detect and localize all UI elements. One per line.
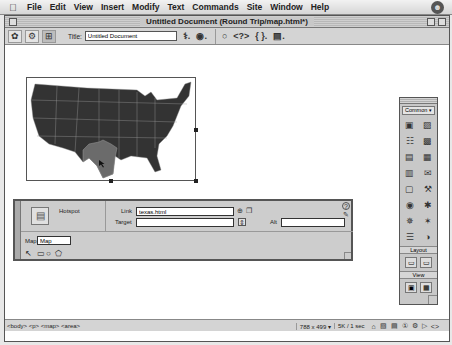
code-view-button[interactable]: ✿ <box>8 30 22 43</box>
tag-selector[interactable]: <body> <p> <map> <area> <box>7 323 80 329</box>
file-management-icon[interactable]: ⚕. <box>183 31 191 41</box>
title-label: Title: <box>68 33 82 40</box>
insert-flash-text-icon[interactable]: ✶ <box>421 215 435 227</box>
standard-view-icon[interactable]: ▣ <box>405 282 417 293</box>
code-inspector-launcher-icon[interactable]: <> <box>431 323 439 330</box>
divider <box>21 231 353 232</box>
menu-edit[interactable]: Edit <box>46 2 70 12</box>
launcher-menu-icon[interactable]: ☻ <box>431 1 444 14</box>
menu-help[interactable]: Help <box>307 2 333 12</box>
menu-text[interactable]: Text <box>163 2 188 12</box>
category-dropdown[interactable]: Common ▾ <box>402 106 435 115</box>
design-view-button[interactable]: ⊞ <box>42 30 56 43</box>
document-window: Untitled Document (Round Trip/map.html*)… <box>4 15 450 342</box>
title-input[interactable] <box>85 31 177 41</box>
apple-menu-icon[interactable]:  <box>3 2 23 13</box>
insert-rule-icon[interactable]: ▥ <box>403 167 417 179</box>
alt-input[interactable] <box>281 218 345 227</box>
us-map-graphic <box>27 78 195 180</box>
refresh-icon[interactable]: ○ <box>222 31 227 41</box>
insert-fireworks-html-icon[interactable]: ◉ <box>403 199 417 211</box>
layout-section-label: Layout <box>400 246 437 254</box>
chevron-down-icon: ▾ <box>328 324 331 330</box>
panel-titlebar[interactable] <box>400 98 437 104</box>
insert-navigation-bar-icon[interactable]: ▤ <box>403 151 417 163</box>
browse-folder-icon[interactable]: ❐ <box>245 207 253 215</box>
menu-insert[interactable]: Insert <box>97 2 128 12</box>
layout-view-icon[interactable]: ▦ <box>420 282 432 293</box>
link-input[interactable] <box>136 207 234 216</box>
draw-layout-table-icon[interactable]: ▭ <box>420 257 432 268</box>
rectangle-hotspot-tool[interactable]: ▭ <box>37 250 45 258</box>
category-value: Common <box>405 107 427 113</box>
insert-tabular-data-icon[interactable]: ▩ <box>421 135 435 147</box>
behaviors-launcher-icon[interactable]: ⚙ <box>412 322 418 330</box>
insert-server-side-include-icon[interactable]: ⚒ <box>421 183 435 195</box>
chevron-down-icon: ▾ <box>429 107 432 114</box>
insert-date-icon[interactable]: ▢ <box>403 183 417 195</box>
inspector-drag-bar[interactable] <box>15 201 21 259</box>
view-options-icon[interactable]: ▤. <box>273 31 285 41</box>
close-box-button[interactable] <box>9 18 17 26</box>
document-toolbar: ✿ ⚙ ⊞ Title: ⚕. ◉. ○ <?> { }. ▤. <box>5 28 449 45</box>
draw-layout-cell-icon[interactable]: ▭ <box>405 257 417 268</box>
menu-file[interactable]: File <box>23 2 46 12</box>
insert-image-icon[interactable]: ▣ <box>403 119 417 131</box>
insert-icons-grid: ▣ ▨ ☷ ▩ ▤ ▦ ▥ ✉ ▢ ⚒ ◉ ✱ ✵ ✶ ☰ ◑ <box>400 119 437 243</box>
design-view-canvas[interactable]: <body> <p> <map> <area> 788 x 499 ▾ 5K /… <box>5 46 449 331</box>
status-bar: <body> <p> <map> <area> 788 x 499 ▾ 5K /… <box>5 319 449 331</box>
history-launcher-icon[interactable]: ▷ <box>422 322 427 330</box>
panel-resize-handle[interactable] <box>428 295 437 304</box>
hotspot-label: Hotspot <box>59 208 80 214</box>
insert-flash-button-icon[interactable]: ✵ <box>403 215 417 227</box>
split-view-button[interactable]: ⚙ <box>25 30 39 43</box>
window-size-menu[interactable]: 788 x 499 ▾ <box>296 323 334 330</box>
preview-browser-icon[interactable]: ◉. <box>196 31 207 41</box>
insert-email-link-icon[interactable]: ✉ <box>421 167 435 179</box>
map-name-input[interactable] <box>37 236 71 245</box>
insert-shockwave-icon[interactable]: ☰ <box>403 231 417 243</box>
menu-bar:  File Edit View Insert Modify Text Comm… <box>0 0 452 15</box>
pointer-hotspot-tool[interactable]: ↖ <box>25 250 32 258</box>
insert-table-icon[interactable]: ☷ <box>403 135 417 147</box>
divider <box>105 201 106 231</box>
point-to-file-icon[interactable]: ⊕ <box>236 207 244 215</box>
css-styles-launcher-icon[interactable]: ① <box>402 322 408 330</box>
insert-generator-icon[interactable]: ◑ <box>421 231 435 243</box>
site-launcher-icon[interactable]: ⌂ <box>372 323 376 330</box>
insert-flash-icon[interactable]: ✱ <box>421 199 435 211</box>
target-input[interactable] <box>136 218 234 227</box>
target-dropdown-button[interactable]: ⇕ <box>238 218 246 226</box>
insert-rollover-icon[interactable]: ▨ <box>421 119 435 131</box>
circle-hotspot-tool[interactable]: ○ <box>46 250 51 258</box>
insert-layer-icon[interactable]: ▦ <box>421 151 435 163</box>
resize-handle[interactable] <box>109 179 113 183</box>
alt-label: Alt <box>270 219 277 225</box>
window-size: 788 x 499 <box>300 324 326 330</box>
hotspot-icon: ▤ <box>31 207 49 225</box>
toolbar-divider <box>215 29 216 44</box>
html-styles-launcher-icon[interactable]: ▤ <box>391 322 398 330</box>
menu-view[interactable]: View <box>70 2 97 12</box>
zoom-box-button[interactable] <box>427 18 435 26</box>
menu-modify[interactable]: Modify <box>128 2 163 12</box>
polygon-hotspot-tool[interactable]: ⬠ <box>55 250 62 258</box>
objects-panel: Common ▾ ▣ ▨ ☷ ▩ ▤ ▦ ▥ ✉ ▢ ⚒ ◉ ✱ ✵ ✶ ☰ ◑… <box>399 97 438 305</box>
collapse-box-button[interactable] <box>438 18 446 26</box>
menu-window[interactable]: Window <box>266 2 307 12</box>
reference-icon[interactable]: <?> <box>233 31 249 41</box>
menu-site[interactable]: Site <box>243 2 267 12</box>
resize-handle[interactable] <box>194 128 198 132</box>
map-label: Map <box>25 238 37 244</box>
assets-launcher-icon[interactable]: ▧ <box>380 322 387 330</box>
expander-arrow[interactable] <box>344 252 351 259</box>
view-section-label: View <box>400 271 437 279</box>
quick-tag-editor-icon[interactable]: ✎ <box>342 211 350 219</box>
help-icon[interactable]: ? <box>342 202 350 210</box>
menu-commands[interactable]: Commands <box>188 2 242 12</box>
window-titlebar[interactable]: Untitled Document (Round Trip/map.html*) <box>5 16 449 28</box>
download-stats: 5K / 1 sec <box>334 323 368 329</box>
resize-handle[interactable] <box>194 179 198 183</box>
code-navigation-icon[interactable]: { }. <box>255 31 267 41</box>
us-map-image[interactable] <box>26 77 196 181</box>
